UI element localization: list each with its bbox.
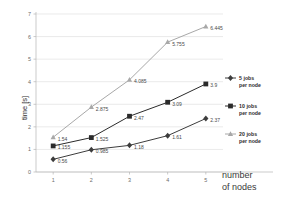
data-label: 1.525 (96, 136, 109, 142)
chart-container: 01234567 12345 0.560.9851.181.612.371.15… (0, 0, 284, 203)
data-label: 6.445 (210, 25, 223, 31)
data-label: 2.47 (134, 115, 144, 121)
chart-legend: 5jobsper node10jobsper node20jobsper nod… (225, 75, 261, 144)
line-chart: 01234567 12345 0.560.9851.181.612.371.15… (0, 0, 284, 203)
data-label: 3.9 (210, 82, 217, 88)
data-point-marker (165, 100, 170, 105)
y-axis-tick-label: 7 (28, 11, 31, 17)
data-label: 0.985 (96, 148, 109, 154)
y-axis-tick-label: 1 (28, 146, 31, 152)
y-axis-tick-label: 2 (28, 124, 31, 130)
x-axis-tick-labels: 12345 (52, 172, 208, 183)
legend-label-sub: per node (239, 138, 261, 144)
legend-label-main: 10jobs (239, 103, 257, 109)
x-axis-title-line2: of nodes (222, 182, 257, 192)
data-label: 1.18 (134, 144, 144, 150)
data-point-marker (89, 135, 94, 140)
series-2 (51, 82, 208, 149)
legend-label-sub: per node (239, 82, 261, 88)
data-label: 2.875 (96, 106, 109, 112)
x-axis-tick-label: 1 (52, 177, 55, 183)
y-axis-tick-label: 6 (28, 34, 31, 40)
y-axis-tick-label: 5 (28, 56, 31, 62)
data-point-marker (127, 142, 132, 148)
data-point-marker (51, 156, 56, 162)
data-point-marker (165, 133, 170, 139)
x-axis-tick-label: 2 (90, 177, 93, 183)
data-label: 3.09 (172, 101, 182, 107)
legend-label-main: 20jobs (239, 131, 257, 137)
data-point-marker (127, 114, 132, 119)
data-point-labels: 0.560.9851.181.612.371.1551.5252.473.093… (58, 25, 223, 164)
data-point-marker (89, 104, 94, 109)
data-point-marker (203, 82, 208, 87)
x-axis-title-line1: number (222, 170, 253, 180)
data-label: 1.155 (58, 144, 71, 150)
data-label: 4.085 (134, 78, 147, 84)
data-label: 0.56 (58, 158, 68, 164)
data-point-marker (203, 116, 208, 122)
legend-unit: jobs (245, 131, 257, 137)
legend-item-5-jobs[interactable]: 5jobsper node (225, 75, 261, 88)
data-point-marker (51, 144, 56, 149)
legend-item-10-jobs[interactable]: 10jobsper node (225, 103, 261, 116)
data-label: 2.37 (210, 117, 220, 123)
axis-lines (36, 12, 273, 172)
data-label: 1.54 (58, 136, 68, 142)
data-series-group (51, 24, 209, 163)
x-axis-tick-label: 4 (166, 177, 169, 183)
legend-count: 5 (239, 75, 242, 81)
legend-count: 10 (239, 103, 245, 109)
data-point-marker (203, 24, 208, 29)
legend-label-sub: per node (239, 110, 261, 116)
y-axis-title: time [s] (20, 96, 29, 120)
y-axis-tick-label: 0 (28, 169, 31, 175)
data-label: 5.755 (172, 41, 185, 47)
y-axis-tick-labels: 01234567 (28, 11, 36, 175)
y-axis-tick-label: 4 (28, 79, 31, 85)
legend-label-main: 5jobs (239, 75, 254, 81)
data-label: 1.61 (172, 134, 182, 140)
data-point-marker (228, 104, 233, 109)
series-1 (51, 116, 209, 163)
legend-item-20-jobs[interactable]: 20jobsper node (225, 131, 261, 144)
series-line (53, 119, 206, 160)
x-axis-tick-label: 3 (128, 177, 131, 183)
legend-unit: jobs (245, 103, 257, 109)
data-point-marker (228, 75, 233, 81)
x-axis-tick-label: 5 (204, 177, 207, 183)
legend-unit: jobs (242, 75, 254, 81)
data-point-marker (51, 134, 56, 139)
legend-count: 20 (239, 131, 245, 137)
data-point-marker (89, 147, 94, 153)
